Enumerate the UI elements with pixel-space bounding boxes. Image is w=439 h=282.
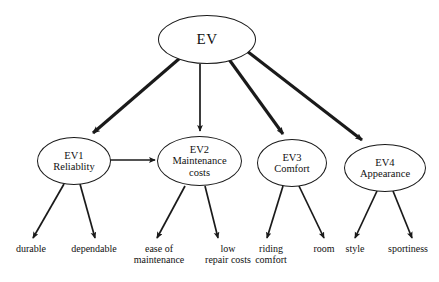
node-ev2-name-line2: costs: [189, 167, 210, 178]
edge-root-to-ev4: [243, 48, 362, 140]
leaf-dependable-line1: dependable: [71, 243, 117, 254]
node-ev1-name: Reliablity: [53, 161, 94, 172]
edge-ev3-to-room: [299, 186, 324, 238]
node-ev1-label: EV1 Reliablity: [51, 150, 96, 172]
edge-root-to-ev3: [228, 58, 283, 134]
node-ev1-code: EV1: [64, 150, 83, 161]
node-ev2[interactable]: EV2 Maintenance costs: [157, 136, 242, 186]
edge-ev2-to-ease-of-maintenance: [157, 186, 185, 238]
leaf-ease-of-maintenance-line2: maintenance: [134, 254, 185, 265]
leaf-style[interactable]: style: [333, 243, 377, 254]
node-ev2-label: EV2 Maintenance costs: [170, 144, 228, 177]
node-ev4-name: Appearance: [360, 168, 410, 179]
edge-ev1-to-dependable: [80, 184, 95, 238]
leaf-ease-of-maintenance[interactable]: ease of maintenance: [122, 243, 196, 265]
edge-ev4-to-sportiness: [393, 191, 412, 238]
leaf-riding-comfort-line1: riding: [259, 243, 283, 254]
edge-ev2-to-low-repair-costs: [205, 186, 218, 238]
edge-ev3-to-riding-comfort: [267, 186, 283, 238]
node-ev3-code: EV3: [282, 152, 301, 163]
node-ev3-label: EV3 Comfort: [272, 152, 312, 174]
node-ev2-code: EV2: [190, 144, 209, 155]
node-ev3-name: Comfort: [274, 163, 310, 174]
leaf-sportiness[interactable]: sportiness: [377, 243, 439, 254]
node-ev-root[interactable]: EV: [158, 15, 256, 64]
leaf-durable-line1: durable: [16, 243, 46, 254]
node-ev3[interactable]: EV3 Comfort: [257, 139, 327, 187]
node-ev1[interactable]: EV1 Reliablity: [37, 137, 111, 185]
leaf-ease-of-maintenance-line1: ease of: [145, 243, 173, 254]
leaf-dependable[interactable]: dependable: [56, 243, 132, 254]
leaf-low-repair-costs-line1: low: [221, 243, 236, 254]
edge-ev1-to-durable: [33, 184, 64, 238]
diagram-canvas: EV EV1 Reliablity EV2 Maintenance costs …: [0, 0, 439, 282]
leaf-style-line1: style: [346, 243, 365, 254]
node-ev2-name-line1: Maintenance: [172, 155, 226, 166]
edge-root-to-ev1: [93, 58, 180, 133]
node-ev4[interactable]: EV4 Appearance: [344, 144, 426, 192]
leaf-room-line1: room: [313, 243, 334, 254]
leaf-riding-comfort-line2: comfort: [255, 254, 287, 265]
leaf-durable[interactable]: durable: [0, 243, 62, 254]
leaf-riding-comfort[interactable]: riding comfort: [240, 243, 302, 265]
node-ev4-code: EV4: [375, 157, 394, 168]
edge-ev4-to-style: [355, 191, 377, 238]
leaf-sportiness-line1: sportiness: [388, 243, 428, 254]
node-ev4-label: EV4 Appearance: [358, 157, 412, 179]
node-ev-root-label: EV: [195, 32, 220, 48]
